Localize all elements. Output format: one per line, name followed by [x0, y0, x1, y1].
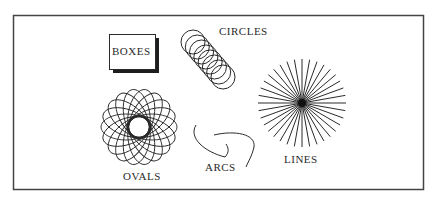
label-boxes: BOXES — [112, 45, 151, 57]
label-circles: CIRCLES — [219, 25, 268, 37]
label-ovals: OVALS — [123, 170, 161, 182]
label-lines: LINES — [284, 153, 318, 165]
circle-shape — [211, 65, 235, 89]
circle-shape — [202, 55, 226, 79]
ovals-demo — [99, 87, 179, 166]
circle-shape — [198, 50, 222, 74]
arc-1 — [194, 125, 228, 157]
circle-shape — [207, 60, 231, 84]
circle-shape — [194, 45, 218, 69]
label-arcs: ARCS — [205, 161, 236, 173]
circle-shape — [185, 35, 209, 59]
circles-demo — [181, 30, 235, 89]
lines-hub — [298, 99, 306, 107]
circle-shape — [181, 30, 205, 54]
circle-shape — [190, 40, 214, 64]
